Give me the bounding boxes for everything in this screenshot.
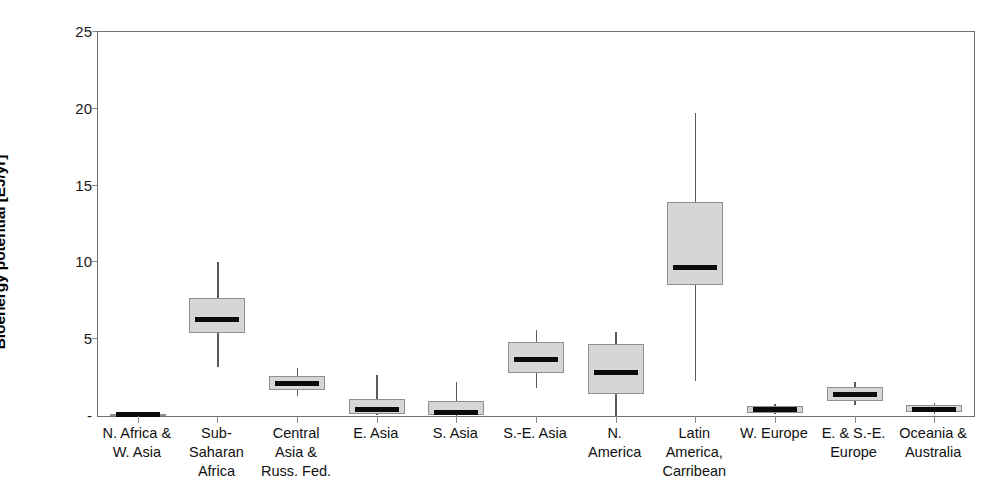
whisker-lower xyxy=(695,285,697,380)
box-iqr xyxy=(667,202,723,285)
x-axis-tick-mark xyxy=(138,416,139,423)
whisker-lower xyxy=(217,333,219,367)
x-axis-category-label: Oceania & Australia xyxy=(893,424,973,462)
median-line xyxy=(673,265,717,270)
y-axis-tick-label: 15 xyxy=(46,177,92,192)
chart-figure: Bioenergy potential [EJ/yr] -510152025 N… xyxy=(0,0,993,504)
y-axis-tick-label: 20 xyxy=(46,100,92,115)
whisker-lower xyxy=(854,401,856,406)
y-axis-tick-label: 10 xyxy=(46,254,92,269)
x-axis-category-label: S.-E. Asia xyxy=(495,424,575,443)
x-axis-tick-mark xyxy=(616,416,617,423)
plot-area xyxy=(97,31,975,417)
median-line xyxy=(514,357,558,362)
whisker-lower xyxy=(297,390,299,396)
whisker-upper xyxy=(615,332,617,344)
whisker-upper xyxy=(376,375,378,400)
x-axis-category-label: N. Africa & W. Asia xyxy=(97,424,177,462)
whisker-upper xyxy=(695,113,697,202)
median-line xyxy=(833,392,877,397)
median-line xyxy=(594,370,638,375)
whisker-lower xyxy=(536,373,538,388)
whisker-upper xyxy=(456,382,458,401)
x-axis-category-label: S. Asia xyxy=(416,424,496,443)
whisker-lower xyxy=(615,394,617,416)
median-line xyxy=(912,407,956,412)
median-line xyxy=(355,407,399,412)
y-axis-tick-label: 5 xyxy=(46,331,92,346)
x-axis-category-label: E. Asia xyxy=(336,424,416,443)
x-axis-tick-mark xyxy=(934,416,935,423)
y-axis-tick-label: 25 xyxy=(46,24,92,39)
box-iqr xyxy=(189,298,245,333)
y-axis-tick-labels: -510152025 xyxy=(0,0,92,504)
x-axis-tick-mark xyxy=(377,416,378,423)
x-axis-tick-mark xyxy=(217,416,218,423)
whisker-upper xyxy=(536,330,538,342)
median-line xyxy=(753,407,797,412)
x-axis-category-label: Sub- Saharan Africa xyxy=(177,424,257,481)
x-axis-tick-mark xyxy=(695,416,696,423)
box-iqr xyxy=(588,344,644,395)
median-line xyxy=(434,410,478,415)
x-axis-tick-mark xyxy=(536,416,537,423)
y-axis-tick-label: - xyxy=(46,408,92,423)
whisker-lower xyxy=(774,413,776,415)
x-axis-tick-mark xyxy=(775,416,776,423)
x-axis-category-labels: N. Africa & W. AsiaSub- Saharan AfricaCe… xyxy=(97,424,973,504)
x-axis-category-label: E. & S.-E. Europe xyxy=(814,424,894,462)
x-axis-tick-mark xyxy=(855,416,856,423)
x-axis-category-label: Latin America, Carribean xyxy=(654,424,734,481)
x-axis-category-label: N. America xyxy=(575,424,655,462)
x-axis-category-label: Central Asia & Russ. Fed. xyxy=(256,424,336,481)
whisker-lower xyxy=(934,412,936,414)
median-line xyxy=(195,317,239,322)
x-axis-tick-mark xyxy=(456,416,457,423)
x-axis-category-label: W. Europe xyxy=(734,424,814,443)
median-line xyxy=(275,381,319,386)
x-axis-tick-mark xyxy=(297,416,298,423)
whisker-upper xyxy=(297,368,299,376)
whisker-upper xyxy=(217,262,219,297)
